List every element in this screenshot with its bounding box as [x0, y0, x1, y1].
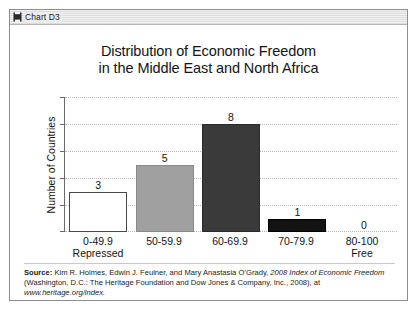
plot-area: Number of Countries 35810	[22, 97, 397, 232]
bar[interactable]	[69, 192, 127, 233]
x-axis-category: 80-100Free	[329, 235, 395, 259]
x-axis-category-sublabel	[131, 247, 197, 259]
bar-slot: 0	[331, 97, 397, 232]
source-label: Source:	[24, 268, 52, 277]
chart-title: Distribution of Economic Freedom in the …	[10, 43, 407, 77]
source-authors: Kim R. Holmes, Edwin J. Feulner, and Mar…	[52, 268, 270, 277]
bar-slot: 8	[198, 97, 264, 232]
x-axis-category: 60-69.9	[197, 235, 263, 259]
bar-value-label: 1	[295, 206, 301, 218]
window-title: Chart D3	[25, 12, 62, 23]
bar-slot: 3	[65, 97, 131, 232]
bar[interactable]	[136, 165, 194, 233]
x-axis-category-sublabel: Repressed	[65, 247, 131, 259]
bar-value-label: 0	[361, 219, 367, 231]
source-note: Source: Kim R. Holmes, Edwin J. Feulner,…	[24, 268, 395, 297]
chart-title-line1: Distribution of Economic Freedom	[101, 43, 316, 59]
x-axis-category-sublabel	[197, 247, 263, 259]
x-axis-category-range: 70-79.9	[278, 235, 314, 247]
chart-title-line2: in the Middle East and North Africa	[10, 60, 407, 77]
x-axis-category: 50-59.9	[131, 235, 197, 259]
document-chart-icon	[13, 12, 22, 22]
x-axis-category: 70-79.9	[263, 235, 329, 259]
y-axis-label: Number of Countries	[45, 100, 57, 230]
bar-slot: 1	[264, 97, 330, 232]
x-axis-category-range: 60-69.9	[212, 235, 248, 247]
bar-value-label: 5	[162, 152, 168, 164]
bar[interactable]	[202, 124, 260, 232]
x-axis-category-sublabel: Free	[329, 247, 395, 259]
x-axis-category: 0-49.9Repressed	[65, 235, 131, 259]
source-publisher: (Washington, D.C.: The Heritage Foundati…	[24, 278, 320, 287]
titlebar-filler	[62, 10, 407, 25]
x-axis-category-sublabel	[263, 247, 329, 259]
chart-window: Chart D3 Distribution of Economic Freedo…	[9, 9, 408, 301]
source-publication-title: 2008 Index of Economic Freedom	[270, 268, 384, 277]
x-axis-labels: 0-49.9Repressed50-59.9 60-69.9 70-79.9 8…	[65, 235, 395, 259]
bar-slot: 5	[131, 97, 197, 232]
x-axis-category-range: 0-49.9	[83, 235, 113, 247]
window-titlebar[interactable]: Chart D3	[10, 10, 407, 25]
chart-card: Distribution of Economic Freedom in the …	[10, 25, 407, 300]
source-divider	[24, 263, 395, 264]
screenshot-root: Chart D3 Distribution of Economic Freedo…	[0, 0, 417, 310]
bar[interactable]	[268, 219, 326, 233]
source-url: www.heritage.org/index.	[24, 288, 105, 297]
plot-canvas: 35810	[65, 97, 397, 232]
x-axis-category-range: 80-100	[346, 235, 379, 247]
bar-series: 35810	[65, 97, 397, 232]
bar-value-label: 3	[95, 179, 101, 191]
bar-value-label: 8	[228, 111, 234, 123]
x-axis-category-range: 50-59.9	[146, 235, 182, 247]
